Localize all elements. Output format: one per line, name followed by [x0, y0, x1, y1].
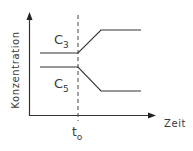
curve-c5-label: C5: [54, 76, 69, 94]
t0-label: to: [72, 125, 83, 142]
concentration-time-diagram: C3 C5 Konzentration Zeit to: [0, 0, 193, 151]
y-axis-arrow-icon: [27, 12, 33, 20]
y-axis-label: Konzentration: [10, 31, 21, 108]
x-axis-label: Zeit: [164, 118, 186, 129]
curve-c3-label: C3: [54, 32, 69, 50]
x-axis-arrow-icon: [148, 113, 156, 119]
